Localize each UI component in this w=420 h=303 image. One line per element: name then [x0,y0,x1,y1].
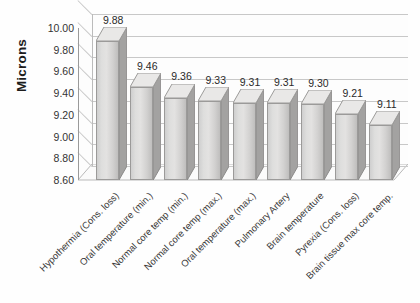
x-axis-category-labels: Hypothermia (Cons. loss)Oral temperature… [0,0,420,303]
bar-chart: Microns 10.009.809.609.409.209.008.808.6… [0,0,420,303]
